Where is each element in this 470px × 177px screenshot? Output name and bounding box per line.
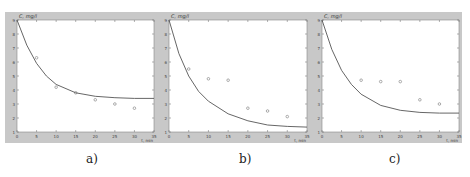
svg-text:5: 5 [164, 74, 167, 79]
svg-text:6: 6 [164, 60, 167, 65]
y-axis-label: C, mg/l [171, 13, 189, 19]
svg-text:0: 0 [16, 134, 19, 139]
plot-b: 05101520253035123456789 [157, 12, 310, 143]
svg-text:5: 5 [12, 74, 15, 79]
chart-panel-a: 05101520253035123456789 C, mg/l t, min [5, 12, 157, 143]
x-axis-label: t, min [446, 138, 458, 143]
svg-text:9: 9 [12, 18, 15, 23]
svg-text:9: 9 [164, 18, 167, 23]
svg-text:4: 4 [164, 88, 167, 93]
svg-text:20: 20 [245, 134, 251, 139]
svg-text:6: 6 [317, 60, 320, 65]
svg-text:10: 10 [206, 134, 212, 139]
svg-text:2: 2 [12, 116, 15, 121]
svg-text:7: 7 [164, 46, 167, 51]
plot-c: 05101520253035123456789 [310, 12, 462, 143]
svg-text:2: 2 [164, 116, 167, 121]
y-axis-label: C, mg/l [324, 13, 342, 19]
svg-text:30: 30 [437, 134, 443, 139]
svg-text:10: 10 [54, 134, 60, 139]
svg-text:7: 7 [317, 46, 320, 51]
svg-text:5: 5 [317, 74, 320, 79]
caption-b: b) [239, 152, 251, 166]
chart-panel-c: 05101520253035123456789 C, mg/l t, min [310, 12, 462, 143]
y-axis-label: C, mg/l [19, 13, 37, 19]
svg-text:30: 30 [285, 134, 291, 139]
svg-text:20: 20 [398, 134, 404, 139]
svg-text:5: 5 [340, 134, 343, 139]
svg-text:8: 8 [164, 32, 167, 37]
svg-text:4: 4 [317, 88, 320, 93]
svg-text:3: 3 [164, 102, 167, 107]
svg-text:15: 15 [226, 134, 232, 139]
caption-a: a) [86, 152, 98, 166]
svg-text:8: 8 [317, 32, 320, 37]
svg-text:30: 30 [132, 134, 138, 139]
svg-text:5: 5 [35, 134, 38, 139]
svg-text:3: 3 [12, 102, 15, 107]
plot-a: 05101520253035123456789 [5, 12, 157, 143]
x-axis-label: t, min [294, 138, 306, 143]
svg-text:8: 8 [12, 32, 15, 37]
svg-text:5: 5 [187, 134, 190, 139]
svg-text:4: 4 [12, 88, 15, 93]
svg-text:0: 0 [321, 134, 324, 139]
svg-text:3: 3 [317, 102, 320, 107]
svg-text:20: 20 [93, 134, 99, 139]
caption-c: c) [389, 152, 400, 166]
chart-panel-b: 05101520253035123456789 C, mg/l t, min [157, 12, 310, 143]
svg-text:6: 6 [12, 60, 15, 65]
svg-text:25: 25 [112, 134, 118, 139]
svg-text:2: 2 [317, 116, 320, 121]
svg-text:25: 25 [417, 134, 423, 139]
x-axis-label: t, min [141, 138, 153, 143]
svg-text:0: 0 [168, 134, 171, 139]
svg-text:25: 25 [265, 134, 271, 139]
svg-text:10: 10 [359, 134, 365, 139]
svg-text:15: 15 [378, 134, 384, 139]
svg-text:9: 9 [317, 18, 320, 23]
svg-text:7: 7 [12, 46, 15, 51]
svg-text:15: 15 [73, 134, 79, 139]
